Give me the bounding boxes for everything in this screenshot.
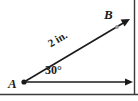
vertex-point-a <box>21 79 26 84</box>
angle-diagram-svg <box>0 0 138 101</box>
diagonal-ray-line <box>24 22 125 82</box>
diagonal-ray-arrowhead <box>121 19 130 26</box>
vertex-label-a: A <box>8 77 17 90</box>
point-marker-b <box>115 25 119 29</box>
endpoint-label-b: B <box>104 8 113 21</box>
horizontal-ray-arrowhead <box>125 78 133 85</box>
angle-measure-label: 30° <box>45 64 62 76</box>
geometry-figure: A B 30° 2 in. <box>0 0 138 101</box>
